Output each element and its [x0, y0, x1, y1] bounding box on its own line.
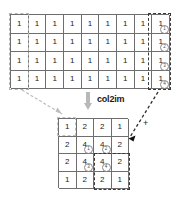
cell-value: 1 — [88, 38, 92, 46]
col2im-label: col2im — [97, 94, 124, 104]
col-cell-r1-c2: 1 — [29, 15, 47, 34]
cell-value: 1 — [105, 75, 109, 83]
col-cell-r4-c5: 1 — [82, 71, 100, 90]
col2im-diagram: 1111111111111111111211111111131111111114… — [0, 0, 182, 198]
cell-value: 1 — [35, 20, 39, 28]
cell-value: 1 — [70, 75, 74, 83]
col-cell-r3-c3: 1 — [46, 52, 64, 71]
col-marker-3: 3 — [160, 62, 169, 71]
cell-value: 1 — [141, 20, 145, 28]
col-cell-r2-c9: 12 — [152, 34, 170, 53]
col-cell-r3-c7: 1 — [117, 52, 135, 71]
cell-value: 1 — [65, 176, 69, 184]
cell-value: 1 — [17, 75, 21, 83]
plus-sign-label: + — [143, 119, 148, 128]
image-cell-r3-c1: 2 — [59, 154, 77, 172]
col-cell-r2-c2: 1 — [29, 34, 47, 53]
image-cell-r2-c3: 42 — [94, 137, 112, 155]
image-cell-r4-c1: 1 — [59, 172, 77, 190]
col-cell-r3-c6: 1 — [99, 52, 117, 71]
cell-value: 1 — [70, 38, 74, 46]
col-cell-r4-c6: 1 — [99, 71, 117, 90]
cell-value: 1 — [123, 75, 127, 83]
cell-value: 1 — [17, 20, 21, 28]
col-cell-r4-c4: 1 — [64, 71, 82, 90]
cell-value: 2 — [65, 158, 69, 166]
connector-left-dashed — [22, 90, 62, 114]
col-marker-1: 1 — [160, 25, 169, 34]
image-marker-r3c3: 4 — [102, 163, 111, 172]
image-cell-r1-c1: 1 — [59, 119, 77, 137]
col-cell-r3-c1: 1 — [11, 52, 29, 71]
col-cell-r1-c3: 1 — [46, 15, 64, 34]
image-cell-r2-c1: 2 — [59, 137, 77, 155]
col-cell-r2-c1: 1 — [11, 34, 29, 53]
cell-value: 1 — [105, 38, 109, 46]
image-cell-r1-c2: 2 — [77, 119, 95, 137]
cell-value: 1 — [88, 20, 92, 28]
cell-value: 1 — [70, 20, 74, 28]
col-cell-r4-c3: 1 — [46, 71, 64, 90]
image-cell-r2-c2: 41 — [77, 137, 95, 155]
col-cell-r3-c8: 1 — [135, 52, 153, 71]
cell-value: 2 — [83, 123, 87, 131]
col-marker-2: 2 — [160, 43, 169, 52]
image-cell-r4-c4: 1 — [112, 172, 130, 190]
cell-value: 2 — [118, 141, 122, 149]
cell-value: 1 — [70, 57, 74, 65]
image-cell-r2-c4: 2 — [112, 137, 130, 155]
connector-right-arrowhead — [129, 136, 136, 142]
col-cell-r3-c9: 13 — [152, 52, 170, 71]
cell-value: 2 — [118, 158, 122, 166]
col-cell-r1-c6: 1 — [99, 15, 117, 34]
image-cell-r4-c2: 2 — [77, 172, 95, 190]
image-cell-r3-c2: 43 — [77, 154, 95, 172]
cell-value: 2 — [100, 123, 104, 131]
cell-value: 1 — [118, 123, 122, 131]
col-cell-r1-c8: 1 — [135, 15, 153, 34]
col-cell-r1-c7: 1 — [117, 15, 135, 34]
cell-value: 1 — [17, 57, 21, 65]
cell-value: 1 — [88, 75, 92, 83]
source-col-matrix: 1111111111111111111211111111131111111114 — [10, 14, 169, 88]
col2im-down-arrow-icon — [84, 92, 92, 111]
image-cell-r1-c4: 1 — [112, 119, 130, 137]
cell-value: 1 — [123, 57, 127, 65]
col-cell-r2-c4: 1 — [64, 34, 82, 53]
col-cell-r1-c1: 1 — [11, 15, 29, 34]
cell-value: 1 — [105, 20, 109, 28]
col-cell-r1-c9: 11 — [152, 15, 170, 34]
cell-value: 2 — [65, 141, 69, 149]
col-cell-r4-c9: 14 — [152, 71, 170, 90]
col-cell-r2-c3: 1 — [46, 34, 64, 53]
cell-value: 1 — [35, 75, 39, 83]
col-cell-r1-c5: 1 — [82, 15, 100, 34]
col-cell-r2-c8: 1 — [135, 34, 153, 53]
cell-value: 1 — [88, 57, 92, 65]
col-cell-r1-c4: 1 — [64, 15, 82, 34]
cell-value: 1 — [52, 20, 56, 28]
col-cell-r4-c2: 1 — [29, 71, 47, 90]
image-marker-r2c3: 2 — [102, 145, 111, 154]
cell-value: 1 — [123, 38, 127, 46]
connector-right-dashed — [130, 92, 158, 137]
col-cell-r2-c5: 1 — [82, 34, 100, 53]
image-cell-r3-c3: 44 — [94, 154, 112, 172]
col-cell-r2-c6: 1 — [99, 34, 117, 53]
image-marker-r2c2: 1 — [84, 145, 93, 154]
image-cell-r4-c3: 2 — [94, 172, 112, 190]
col-cell-r3-c5: 1 — [82, 52, 100, 71]
image-cell-r3-c4: 2 — [112, 154, 130, 172]
cell-value: 1 — [118, 176, 122, 184]
col-cell-r3-c2: 1 — [29, 52, 47, 71]
cell-value: 1 — [35, 57, 39, 65]
image-cell-r1-c3: 2 — [94, 119, 112, 137]
cell-value: 1 — [52, 38, 56, 46]
cell-value: 2 — [100, 176, 104, 184]
cell-value: 2 — [83, 176, 87, 184]
connector-left-arrowhead — [56, 108, 63, 115]
col-marker-4: 4 — [160, 80, 169, 89]
cell-value: 1 — [52, 75, 56, 83]
cell-value: 1 — [123, 20, 127, 28]
col-cell-r4-c1: 1 — [11, 71, 29, 90]
